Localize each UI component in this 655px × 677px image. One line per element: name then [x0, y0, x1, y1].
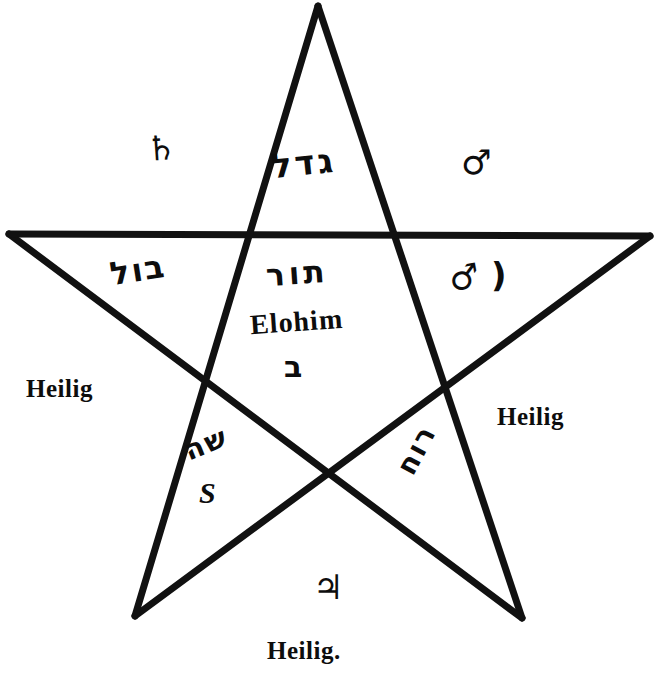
star-line-bottom-right-to-left: [9, 234, 522, 618]
hebrew-center-top: תור: [265, 256, 329, 291]
pentagram-figure: ♄ ♂ גדל בול תור Elohim ב ♂ ) Heilig Heil…: [0, 0, 655, 677]
star-line-apex-to-bottom-right: [318, 6, 522, 618]
hebrew-top-point: גדל: [269, 143, 337, 184]
latin-letter-s: S: [199, 478, 216, 508]
star-line-left-to-right: [9, 234, 650, 236]
mars-glyph-icon-right: ♂: [446, 258, 482, 297]
hebrew-center-bottom: ב: [284, 352, 302, 382]
crescent-moon-icon: ): [491, 258, 507, 292]
divine-name-elohim: Elohim: [249, 305, 344, 339]
label-heilig-bottom: Heilig.: [267, 638, 341, 663]
mars-glyph-icon: ♂: [461, 145, 491, 179]
jupiter-glyph-icon: ♃: [313, 570, 343, 604]
label-heilig-right: Heilig: [497, 404, 564, 429]
hebrew-upper-left: בול: [108, 250, 168, 290]
saturn-glyph-icon: ♄: [145, 130, 178, 166]
label-heilig-left: Heilig: [26, 376, 93, 401]
